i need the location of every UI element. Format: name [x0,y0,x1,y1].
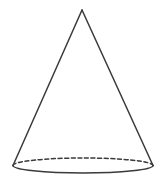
cone-diagram [0,0,165,192]
figure-canvas [0,0,165,192]
diagram-background [0,0,165,192]
